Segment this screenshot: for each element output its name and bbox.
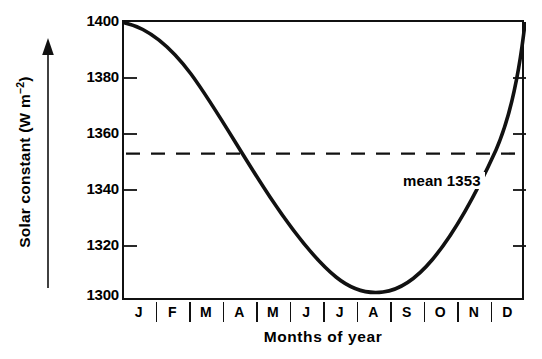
month-cell-jul: J: [323, 301, 357, 325]
x-axis-month-labels: J F M A M J J A S O N D: [122, 301, 524, 325]
month-cell-jan: J: [122, 301, 156, 325]
x-axis-label: Months of year: [122, 328, 524, 346]
y-tick-label-1400: 1400: [57, 13, 119, 28]
month-cell-may: M: [256, 301, 290, 325]
y-ticks-right: [513, 78, 526, 246]
month-cell-feb: F: [156, 301, 190, 325]
month-cell-aug: A: [357, 301, 391, 325]
mean-line-label: mean 1353: [399, 172, 485, 189]
y-axis-tick-labels: 1400 1380 1360 1340 1320 1300: [55, 0, 119, 359]
month-cell-oct: O: [424, 301, 458, 325]
y-axis-label-close-paren: ): [16, 76, 33, 81]
month-cell-mar: M: [189, 301, 223, 325]
y-axis-label-exponent: −2: [14, 82, 26, 94]
y-axis-direction-arrow-icon: [41, 38, 55, 288]
y-axis-label-block: Solar constant (W m−2): [0, 0, 40, 359]
month-cell-sep: S: [390, 301, 424, 325]
month-cell-dec: D: [491, 301, 525, 325]
plot-area: mean 1353: [122, 20, 524, 300]
plot-svg: [124, 22, 526, 302]
y-tick-label-1380: 1380: [57, 69, 119, 84]
y-tick-label-1340: 1340: [57, 181, 119, 196]
solar-constant-curve: [125, 23, 525, 292]
solar-constant-chart: Solar constant (W m−2) 1400 1380 1360 13…: [0, 0, 542, 359]
y-tick-label-1300: 1300: [57, 287, 119, 302]
y-axis-label: Solar constant (W m−2): [14, 12, 34, 312]
y-tick-label-1320: 1320: [57, 237, 119, 252]
y-ticks-left: [124, 78, 137, 246]
y-axis-label-main: Solar constant (W m: [16, 94, 33, 248]
month-cell-nov: N: [457, 301, 491, 325]
month-cell-jun: J: [290, 301, 324, 325]
month-cell-apr: A: [223, 301, 257, 325]
y-tick-label-1360: 1360: [57, 125, 119, 140]
